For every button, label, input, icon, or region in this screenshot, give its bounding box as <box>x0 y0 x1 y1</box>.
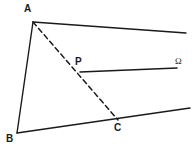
geometry-canvas <box>0 0 196 154</box>
segment-ab <box>17 22 33 133</box>
geometry-figure: A B C P Ω <box>0 0 196 154</box>
vertex-label-c: C <box>114 123 121 133</box>
omega-symbol-label: Ω <box>175 57 182 66</box>
ray-b-right <box>17 108 190 133</box>
vertex-label-b: B <box>6 134 13 144</box>
ray-a-right <box>33 22 186 33</box>
vertex-label-a: A <box>24 4 31 14</box>
ray-p-omega <box>80 68 177 72</box>
point-label-p: P <box>75 57 82 67</box>
